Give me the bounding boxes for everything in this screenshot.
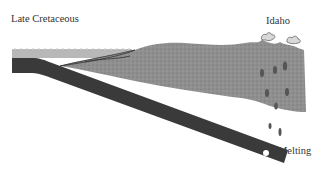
volcano-plume-left <box>261 33 274 41</box>
slab-tip-hole <box>263 150 269 156</box>
subduction-diagram <box>0 0 322 173</box>
volcano-plume-right <box>287 36 300 43</box>
volcanoes <box>261 33 300 44</box>
